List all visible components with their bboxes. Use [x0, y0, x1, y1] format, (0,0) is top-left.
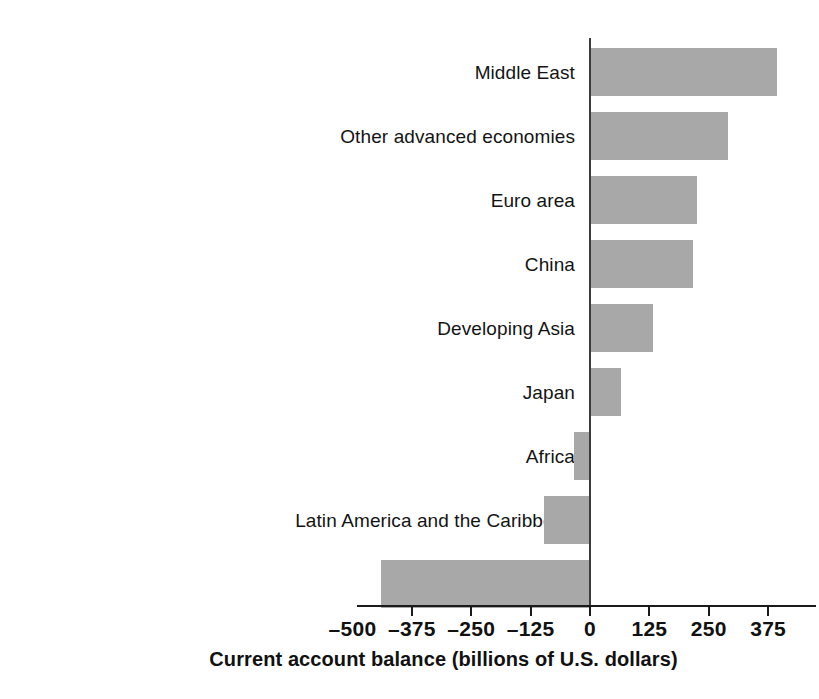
x-axis-tick	[470, 607, 472, 616]
x-axis-tick	[411, 607, 413, 616]
x-axis-tick	[530, 607, 532, 616]
bar-japan	[590, 368, 621, 416]
x-axis-tick-label: –250	[447, 617, 495, 641]
bar-euro-area	[590, 176, 697, 224]
bar-middle-east	[590, 48, 777, 96]
bar-developing-asia	[590, 304, 653, 352]
x-axis-tick	[648, 607, 650, 616]
bar-united-states	[381, 560, 590, 608]
x-axis-tick	[767, 607, 769, 616]
x-axis-tick-label: –125	[507, 617, 555, 641]
x-axis-tick-label: 250	[691, 617, 727, 641]
x-axis-tick-label: 125	[631, 617, 667, 641]
x-axis-tick-label: 375	[750, 617, 786, 641]
plot-area	[0, 0, 819, 606]
x-axis-line	[357, 605, 816, 607]
bar-africa	[574, 432, 590, 480]
chart-figure: Middle East Other advanced economies Eur…	[0, 0, 819, 699]
x-axis-tick	[589, 607, 591, 616]
x-axis-title: Current account balance (billions of U.S…	[0, 648, 819, 671]
x-axis-tick	[708, 607, 710, 616]
x-axis-tick-label: 0	[584, 617, 596, 641]
zero-axis-line	[589, 38, 591, 606]
x-axis-tick-label: –500	[329, 617, 377, 641]
bar-china	[590, 240, 693, 288]
bar-other-advanced-economies	[590, 112, 728, 160]
x-axis-tick-label: –375	[388, 617, 436, 641]
bar-latin-america-and-the-caribbean	[544, 496, 590, 544]
